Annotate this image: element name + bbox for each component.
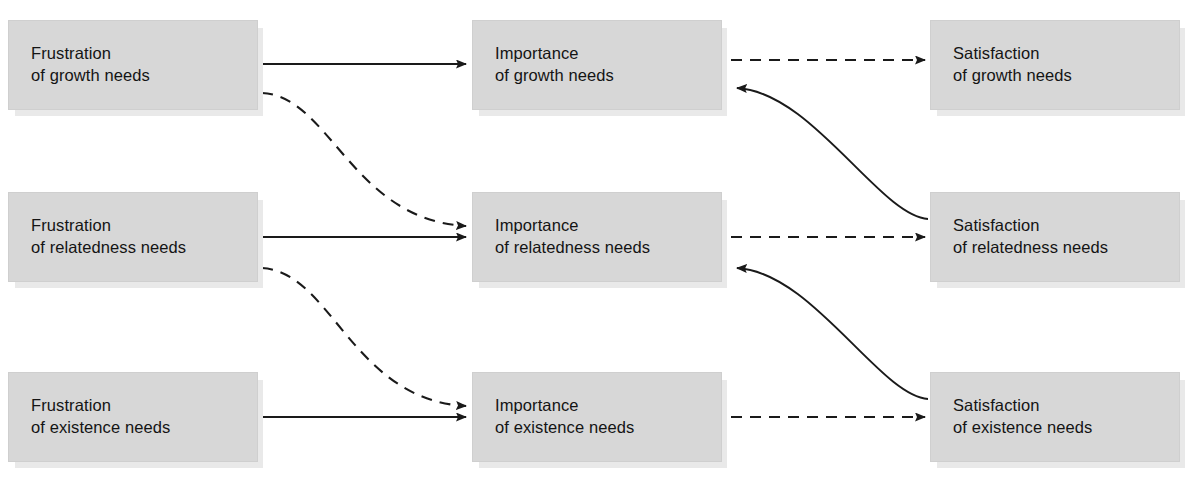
node-frustration-relatedness-label: Frustration of relatedness needs [9, 215, 186, 259]
node-satisfaction-growth-label: Satisfaction of growth needs [931, 43, 1072, 87]
node-importance-growth-label: Importance of growth needs [473, 43, 614, 87]
node-satisfaction-relatedness-label: Satisfaction of relatedness needs [931, 215, 1108, 259]
edge-solid-curve-satisfaction-existence-to-importance-relatedness [737, 268, 928, 399]
node-satisfaction-relatedness[interactable]: Satisfaction of relatedness needs [930, 192, 1180, 282]
node-satisfaction-existence[interactable]: Satisfaction of existence needs [930, 372, 1180, 462]
node-frustration-relatedness[interactable]: Frustration of relatedness needs [8, 192, 258, 282]
node-importance-relatedness[interactable]: Importance of relatedness needs [472, 192, 722, 282]
cropped-caption-strip [0, 0, 1199, 12]
node-frustration-existence-label: Frustration of existence needs [9, 395, 170, 439]
node-importance-growth[interactable]: Importance of growth needs [472, 20, 722, 110]
node-importance-relatedness-label: Importance of relatedness needs [473, 215, 650, 259]
node-satisfaction-existence-label: Satisfaction of existence needs [931, 395, 1092, 439]
edge-dashed-curve-frustration-growth-to-importance-relatedness [262, 93, 466, 226]
node-importance-existence[interactable]: Importance of existence needs [472, 372, 722, 462]
edge-dashed-curve-frustration-relatedness-to-importance-existence [262, 268, 466, 406]
node-frustration-growth-label: Frustration of growth needs [9, 43, 150, 87]
node-satisfaction-growth[interactable]: Satisfaction of growth needs [930, 20, 1180, 110]
node-importance-existence-label: Importance of existence needs [473, 395, 634, 439]
edge-solid-curve-satisfaction-relatedness-to-importance-growth [737, 88, 928, 219]
node-frustration-existence[interactable]: Frustration of existence needs [8, 372, 258, 462]
diagram-canvas: Frustration of growth needs Frustration … [0, 0, 1199, 485]
node-frustration-growth[interactable]: Frustration of growth needs [8, 20, 258, 110]
